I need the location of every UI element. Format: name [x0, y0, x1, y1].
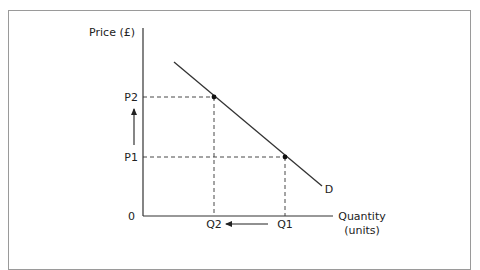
y-axis-label: Price (£)	[89, 26, 135, 39]
x-axis-label-line1: Quantity	[338, 210, 386, 223]
curve-label: D	[325, 183, 333, 196]
x-axis-label-line2: (units)	[344, 224, 380, 237]
point-q2-p2	[212, 95, 217, 100]
q1-label: Q1	[277, 218, 293, 231]
p1-label: P1	[124, 151, 138, 164]
guide-lines	[143, 97, 285, 216]
q2-label: Q2	[206, 218, 222, 231]
point-q1-p1	[283, 155, 288, 160]
origin-label: 0	[128, 210, 135, 223]
demand-curve	[174, 62, 322, 186]
p2-label: P2	[124, 91, 138, 104]
